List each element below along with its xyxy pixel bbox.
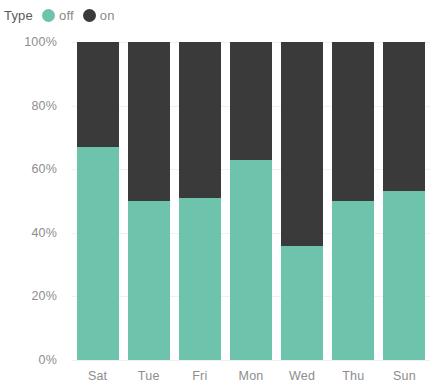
legend-item-on[interactable]: on — [83, 8, 115, 23]
bar-stack[interactable] — [383, 42, 425, 360]
legend-label-on: on — [100, 8, 115, 23]
x-axis-tick-label: Tue — [123, 362, 174, 388]
bar-segment-off[interactable] — [383, 191, 425, 360]
circle-swatch-icon-off — [42, 9, 55, 22]
gridline — [72, 360, 430, 361]
bar-slot — [225, 42, 276, 360]
bar-stack[interactable] — [281, 42, 323, 360]
y-axis-tick-label: 0% — [39, 353, 57, 367]
bar-slot — [123, 42, 174, 360]
bar-segment-off[interactable] — [128, 201, 170, 360]
bar-stack[interactable] — [128, 42, 170, 360]
stacked-bar-chart: 0%20%40%60%80%100% SatTueFriMonWedThuSun — [0, 30, 436, 391]
legend-item-off[interactable]: off — [42, 8, 74, 23]
bar-segment-off[interactable] — [281, 246, 323, 360]
plot-area — [72, 42, 430, 360]
bar-segment-off[interactable] — [179, 198, 221, 360]
bar-segment-on[interactable] — [230, 42, 272, 160]
bar-segment-off[interactable] — [332, 201, 374, 360]
bar-segment-on[interactable] — [77, 42, 119, 147]
x-axis-tick-label: Mon — [225, 362, 276, 388]
bar-stack[interactable] — [230, 42, 272, 360]
x-axis-tick-label: Wed — [277, 362, 328, 388]
y-axis-tick-label: 60% — [31, 162, 57, 176]
bar-stack[interactable] — [332, 42, 374, 360]
bar-segment-on[interactable] — [332, 42, 374, 201]
bar-group — [72, 42, 430, 360]
y-axis-tick-label: 80% — [31, 99, 57, 113]
y-axis-tick-label: 40% — [31, 226, 57, 240]
legend-label-off: off — [59, 8, 74, 23]
x-axis-tick-label: Sat — [72, 362, 123, 388]
bar-slot — [277, 42, 328, 360]
y-axis-tick-label: 100% — [24, 35, 57, 49]
y-axis: 0%20%40%60%80%100% — [0, 42, 66, 360]
bar-segment-off[interactable] — [230, 160, 272, 360]
bar-segment-on[interactable] — [179, 42, 221, 198]
bar-slot — [328, 42, 379, 360]
x-axis-tick-label: Sun — [379, 362, 430, 388]
bar-stack[interactable] — [179, 42, 221, 360]
bar-slot — [379, 42, 430, 360]
y-axis-tick-label: 20% — [31, 289, 57, 303]
x-axis-tick-label: Thu — [328, 362, 379, 388]
bar-segment-off[interactable] — [77, 147, 119, 360]
bar-slot — [174, 42, 225, 360]
legend-title: Type — [4, 8, 33, 23]
chart-legend: Type off on — [4, 4, 115, 26]
bar-stack[interactable] — [77, 42, 119, 360]
bar-segment-on[interactable] — [281, 42, 323, 246]
bar-slot — [72, 42, 123, 360]
x-axis-tick-label: Fri — [174, 362, 225, 388]
bar-segment-on[interactable] — [128, 42, 170, 201]
bar-segment-on[interactable] — [383, 42, 425, 191]
circle-swatch-icon-on — [83, 9, 96, 22]
x-axis: SatTueFriMonWedThuSun — [72, 362, 430, 388]
